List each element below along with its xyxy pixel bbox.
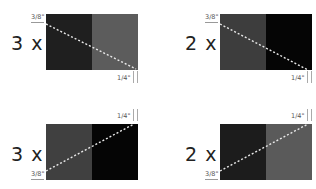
end-dimension-label: 1/4" [291,113,304,120]
dashed-cut-line [220,124,312,180]
panel-bottom-right: 2 x 3/8" 1/4" [0,0,316,189]
start-dimension-label: 3/8" [205,171,218,180]
strip-rectangle [220,124,312,180]
dimension-tick [311,109,312,121]
dimension-tick [307,109,308,121]
multiplier-label: 2 x [185,145,217,164]
